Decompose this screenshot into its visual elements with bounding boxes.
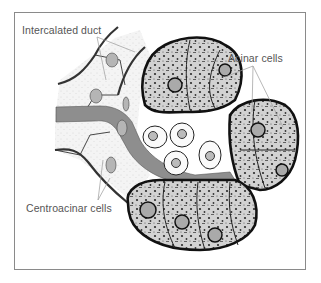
label-intercalated-duct: Intercalated duct: [22, 24, 101, 36]
acinus-diagram: Intercalated duct Acinar cells Centroaci…: [0, 0, 321, 283]
figure-frame: [14, 12, 306, 270]
label-acinar-cells: Acinar cells: [228, 52, 283, 64]
label-centroacinar-cells: Centroacinar cells: [26, 202, 112, 214]
